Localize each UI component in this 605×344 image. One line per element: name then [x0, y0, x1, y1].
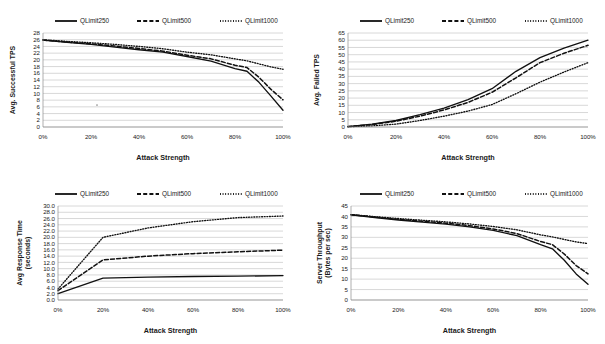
series-qlimit1000: [58, 216, 283, 289]
y-tick-label: 35: [341, 223, 348, 230]
x-axis-title: Attack Strength: [144, 326, 198, 335]
x-tick-label: 40%: [133, 133, 146, 140]
y-tick-label: 2: [37, 116, 41, 123]
x-tick-label: 20%: [85, 133, 98, 140]
legend-label-qlimit250: QLimit250: [385, 17, 415, 25]
y-tick-label: 28: [33, 29, 40, 36]
x-tick-label: 80%: [534, 306, 547, 313]
y-tick-label: 45: [338, 58, 345, 65]
y-tick-label: 26.0: [43, 215, 55, 222]
y-tick-label: 4: [37, 110, 41, 117]
y-axis-title-line1: Avg Response Time: [16, 220, 24, 286]
y-tick-label: 24: [33, 43, 40, 50]
y-tick-label: 30: [338, 80, 345, 87]
series-qlimit500: [351, 215, 588, 274]
x-tick-label: 100%: [580, 306, 596, 313]
x-tick-label: 20%: [97, 306, 110, 313]
ytick-labels-avg-successful-tps: 0246810121416182022242628: [33, 29, 40, 130]
y-tick-label: 50: [338, 51, 345, 58]
avg-response-time-chart: QLimit250QLimit500QLimit1000 0.02.04.06.…: [0, 172, 302, 344]
legend-label-qlimit250: QLimit250: [80, 190, 110, 198]
legend-server-throughput: QLimit250QLimit500QLimit1000: [360, 190, 583, 198]
y-tick-label: 28.0: [43, 208, 55, 215]
series-qlimit1000: [43, 40, 283, 70]
y-tick-label: 20.0: [43, 233, 55, 240]
x-tick-label: 0%: [39, 133, 48, 140]
y-tick-label: 6: [37, 103, 41, 110]
legend-label-qlimit500: QLimit500: [162, 190, 192, 198]
series-qlimit250: [58, 276, 283, 294]
y-axis-title-line2: (seconds): [24, 237, 32, 270]
legend-label-qlimit500: QLimit500: [467, 17, 497, 25]
y-tick-label: 0: [345, 296, 349, 303]
legend-label-qlimit500: QLimit500: [162, 17, 192, 25]
y-tick-label: 0.0: [47, 296, 56, 303]
avg-successful-tps-chart: QLimit250QLimit500QLimit1000 02468101214…: [0, 0, 302, 172]
y-axis-title: Server Throughput(Bytes per sec): [316, 221, 332, 284]
y-tick-label: 22.0: [43, 227, 55, 234]
y-tick-label: 25: [341, 244, 348, 251]
chart-panel-server-throughput: QLimit250QLimit500QLimit1000 05101520253…: [302, 172, 605, 344]
y-axis-title-text: Avg. Successful TPS: [9, 45, 17, 114]
chart-grid: QLimit250QLimit500QLimit1000 02468101214…: [0, 0, 605, 344]
legend-avg-failed-tps: QLimit250QLimit500QLimit1000: [360, 17, 583, 25]
y-tick-label: 2.0: [47, 290, 56, 297]
xtick-labels-avg-successful-tps: 0%20%40%60%80%100%: [39, 133, 292, 140]
x-tick-label: 80%: [232, 306, 245, 313]
x-axis-title: Attack Strength: [441, 153, 495, 162]
y-tick-label: 24.0: [43, 221, 55, 228]
gridlines-avg-successful-tps: [43, 33, 283, 127]
xtick-labels-server-throughput: 0%20%40%60%80%100%: [347, 306, 597, 313]
x-tick-label: 60%: [187, 306, 200, 313]
xtick-labels-avg-failed-tps: 0%20%40%60%80%100%: [344, 133, 597, 140]
y-tick-label: 12.0: [43, 259, 55, 266]
x-tick-label: 100%: [275, 133, 291, 140]
axis-lines-avg-response-time: [58, 206, 283, 300]
y-tick-label: 26: [33, 36, 40, 43]
x-tick-label: 0%: [347, 306, 356, 313]
ytick-labels-avg-failed-tps: 05101520253035404550556065: [338, 29, 345, 130]
y-tick-label: 60: [338, 36, 345, 43]
x-tick-label: 60%: [487, 306, 500, 313]
x-tick-label: 60%: [181, 133, 194, 140]
y-tick-label: 18.0: [43, 240, 55, 247]
ytick-labels-server-throughput: 051015202530354045: [341, 202, 348, 303]
avg-failed-tps-chart: QLimit250QLimit500QLimit1000 05101520253…: [302, 0, 605, 172]
axis-lines-avg-failed-tps: [348, 33, 588, 127]
y-tick-label: 22: [33, 49, 40, 56]
y-tick-label: 45: [341, 202, 348, 209]
y-tick-label: 8: [37, 96, 41, 103]
y-tick-label: 16.0: [43, 246, 55, 253]
y-tick-label: 16: [33, 69, 40, 76]
y-tick-label: 5: [342, 116, 346, 123]
y-tick-label: 10.0: [43, 265, 55, 272]
y-tick-label: 65: [338, 29, 345, 36]
x-tick-label: 20%: [392, 306, 405, 313]
y-tick-label: 10: [33, 90, 40, 97]
y-tick-label: 20: [341, 254, 348, 261]
series-qlimit500: [348, 45, 588, 126]
gridlines-avg-failed-tps: [348, 33, 588, 127]
y-tick-label: 40: [341, 213, 348, 220]
legend-avg-response-time: QLimit250QLimit500QLimit1000: [55, 190, 278, 198]
x-tick-label: 80%: [229, 133, 242, 140]
y-tick-label: 30.0: [43, 202, 55, 209]
x-tick-label: 20%: [390, 133, 403, 140]
series-qlimit1000: [348, 63, 588, 127]
y-axis-title: Avg. Successful TPS: [9, 45, 17, 114]
legend-label-qlimit1000: QLimit1000: [245, 17, 278, 25]
scan-artifact-dot: [96, 104, 98, 106]
gridlines-avg-response-time: [58, 206, 283, 300]
y-axis-title-line2: (Bytes per sec): [324, 228, 332, 277]
y-tick-label: 14: [33, 76, 40, 83]
y-tick-label: 20: [33, 56, 40, 63]
chart-panel-avg-response-time: QLimit250QLimit500QLimit1000 0.02.04.06.…: [0, 172, 302, 344]
x-axis-title: Attack Strength: [443, 326, 497, 335]
gridlines-server-throughput: [351, 206, 588, 300]
legend-label-qlimit250: QLimit250: [80, 17, 110, 25]
legend-label-qlimit1000: QLimit1000: [550, 190, 583, 198]
y-tick-label: 30: [341, 233, 348, 240]
y-tick-label: 0: [342, 123, 346, 130]
y-tick-label: 18: [33, 63, 40, 70]
x-tick-label: 0%: [344, 133, 353, 140]
